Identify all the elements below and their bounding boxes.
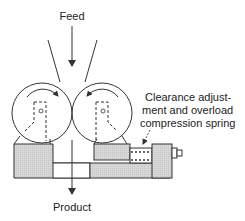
right-bearing-outline	[96, 102, 117, 141]
left-shaft-icon	[39, 109, 43, 113]
roll-crusher-diagram: Feed P	[0, 0, 245, 221]
spring-label-line2: ment and overload	[142, 104, 233, 116]
right-roll	[72, 83, 132, 143]
clockwise-arrow-icon	[27, 89, 58, 97]
spring-pointer-arrow	[143, 130, 150, 144]
feed-label: Feed	[59, 10, 84, 22]
counterclockwise-arrow-icon	[87, 89, 118, 97]
left-bearing-outline	[25, 102, 46, 141]
spring-label-line3: compression spring	[140, 117, 235, 129]
adjustment-bolt-icon	[172, 148, 182, 158]
spring-label-line1: Clearance adjust-	[145, 91, 232, 103]
product-label: Product	[53, 201, 91, 213]
fixed-bearing-block	[14, 136, 90, 178]
left-roll	[12, 83, 72, 143]
hopper-left-wall	[48, 40, 60, 82]
right-shaft-icon	[101, 109, 105, 113]
movable-bearing-block	[90, 136, 172, 178]
hopper-right-wall	[85, 40, 97, 82]
